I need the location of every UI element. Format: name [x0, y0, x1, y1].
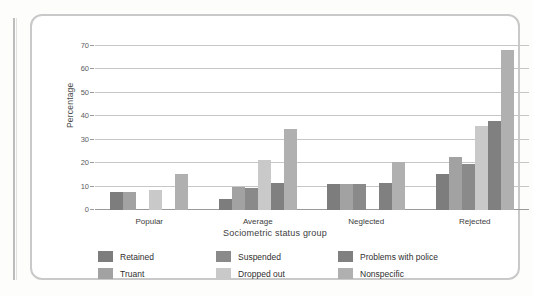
legend-swatch — [98, 251, 113, 262]
y-tick-label: 70 — [81, 41, 89, 50]
y-tick-mark — [90, 186, 94, 187]
bar[interactable] — [475, 126, 488, 210]
bar-fill — [449, 157, 462, 210]
legend-label: Suspended — [238, 252, 281, 262]
bar-fill — [392, 162, 405, 210]
legend-swatch — [216, 268, 231, 279]
bar-fill — [258, 160, 271, 210]
bar-group: Popular — [95, 46, 204, 210]
legend-label: Truant — [120, 269, 144, 279]
bar[interactable] — [392, 162, 405, 210]
bar[interactable] — [449, 157, 462, 210]
bar[interactable] — [436, 174, 449, 210]
bar-fill — [284, 129, 297, 210]
bar[interactable] — [353, 184, 366, 210]
y-axis-label: Percentage — [65, 83, 75, 128]
bar-fill — [462, 164, 475, 210]
legend-item[interactable]: Nonspecific — [338, 268, 478, 279]
bar[interactable] — [271, 183, 284, 210]
y-tick-mark — [90, 92, 94, 93]
legend-swatch — [216, 251, 231, 262]
bar-fill — [232, 187, 245, 210]
bar-fill — [379, 183, 392, 210]
y-tick-mark — [90, 45, 94, 46]
bar-fill — [340, 184, 353, 210]
bar[interactable] — [327, 184, 340, 210]
bar[interactable] — [488, 121, 501, 210]
bar-fill — [110, 192, 123, 210]
legend-label: Nonspecific — [360, 269, 404, 279]
y-tick-mark — [90, 162, 94, 163]
bar[interactable] — [110, 192, 123, 210]
x-tick-label: Neglected — [312, 217, 421, 226]
y-tick-mark — [90, 68, 94, 69]
bar-fill — [175, 174, 188, 210]
legend-item[interactable]: Suspended — [216, 251, 338, 262]
chart-legend: RetainedSuspendedProblems with policeTru… — [98, 248, 478, 282]
x-tick-label: Popular — [95, 217, 204, 226]
bar-group: Rejected — [421, 46, 530, 210]
bar-fill — [123, 192, 136, 210]
bar[interactable] — [379, 183, 392, 210]
bar[interactable] — [175, 174, 188, 210]
legend-label: Dropped out — [238, 269, 285, 279]
legend-label: Problems with police — [360, 252, 438, 262]
x-axis-label: Sociometric status group — [32, 228, 518, 238]
chart-page: Percentage 010203040506070 PopularAverag… — [0, 0, 533, 296]
legend-item[interactable]: Retained — [98, 251, 216, 262]
legend-item[interactable]: Dropped out — [216, 268, 338, 279]
bar-fill — [353, 184, 366, 210]
x-tick-label: Average — [204, 217, 313, 226]
plot-area: 010203040506070 PopularAverageNeglectedR… — [95, 46, 529, 210]
y-tick-label: 20 — [81, 158, 89, 167]
bar[interactable] — [462, 164, 475, 210]
page-edge-line-secondary — [16, 18, 17, 280]
bar-fill — [475, 126, 488, 210]
y-tick-mark — [90, 115, 94, 116]
bar[interactable] — [245, 188, 258, 210]
y-tick-label: 30 — [81, 134, 89, 143]
bar-fill — [219, 199, 232, 210]
page-edge-line — [13, 18, 15, 280]
y-tick-mark — [90, 139, 94, 140]
bar-group: Neglected — [312, 46, 421, 210]
figure-frame: Percentage 010203040506070 PopularAverag… — [30, 14, 520, 280]
bar[interactable] — [232, 187, 245, 210]
legend-label: Retained — [120, 252, 154, 262]
legend-item[interactable]: Problems with police — [338, 251, 478, 262]
bar-fill — [501, 50, 514, 210]
legend-swatch — [338, 268, 353, 279]
bar[interactable] — [149, 190, 162, 210]
bar[interactable] — [258, 160, 271, 210]
y-tick-label: 0 — [85, 205, 89, 214]
bar-fill — [488, 121, 501, 210]
y-tick-label: 10 — [81, 181, 89, 190]
legend-swatch — [338, 251, 353, 262]
bar-fill — [149, 190, 162, 210]
bar-fill — [327, 184, 340, 210]
bar[interactable] — [284, 129, 297, 210]
bar-groups: PopularAverageNeglectedRejected — [95, 46, 529, 210]
bar[interactable] — [123, 192, 136, 210]
x-tick-label: Rejected — [421, 217, 530, 226]
legend-swatch — [98, 268, 113, 279]
y-tick-mark — [90, 209, 94, 210]
y-tick-label: 40 — [81, 111, 89, 120]
bar[interactable] — [501, 50, 514, 210]
bar-fill — [245, 188, 258, 210]
bar-group: Average — [204, 46, 313, 210]
bar-fill — [436, 174, 449, 210]
y-tick-label: 50 — [81, 87, 89, 96]
y-tick-label: 60 — [81, 64, 89, 73]
legend-item[interactable]: Truant — [98, 268, 216, 279]
bar[interactable] — [340, 184, 353, 210]
bar[interactable] — [219, 199, 232, 210]
bar-fill — [271, 183, 284, 210]
